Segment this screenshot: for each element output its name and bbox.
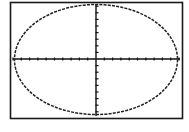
graph-screen bbox=[0, 0, 189, 132]
background bbox=[0, 0, 189, 132]
graph-canvas bbox=[0, 0, 189, 132]
